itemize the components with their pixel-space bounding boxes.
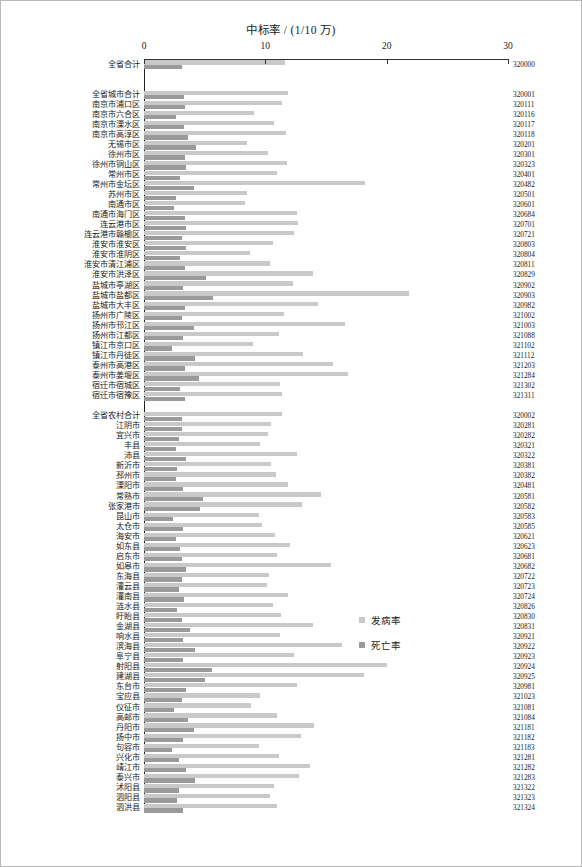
row-label: 全省农村合计 xyxy=(92,411,140,421)
bar-incidence xyxy=(144,111,254,115)
bar-incidence xyxy=(144,221,298,225)
bar-mortality xyxy=(144,718,188,722)
row-label: 盐城市大丰区 xyxy=(92,301,140,311)
row-code: 320117 xyxy=(513,120,535,130)
chart-row: 淮安市淮阴区320804 xyxy=(144,251,508,261)
bar-incidence xyxy=(144,482,288,486)
row-bars xyxy=(144,311,508,321)
row-label: 淮安市淮安区 xyxy=(92,240,140,250)
bar-incidence xyxy=(144,472,276,476)
row-bars xyxy=(144,703,508,713)
row-code: 320116 xyxy=(513,110,535,120)
row-bars xyxy=(144,592,508,602)
bar-mortality xyxy=(144,105,185,109)
row-code: 321088 xyxy=(513,331,535,341)
bar-mortality xyxy=(144,527,183,531)
row-label: 镇江市京口区 xyxy=(92,341,140,351)
chart-row: 常熟市320581 xyxy=(144,492,508,502)
row-label: 扬中市 xyxy=(116,733,140,743)
bar-incidence xyxy=(144,513,259,517)
row-bars xyxy=(144,633,508,643)
bar-incidence xyxy=(144,643,342,647)
row-label: 邳州市 xyxy=(116,471,140,481)
bar-mortality xyxy=(144,587,179,591)
bar-mortality xyxy=(144,467,177,471)
bar-incidence xyxy=(144,131,286,135)
bar-mortality xyxy=(144,196,176,200)
row-label: 泰兴市 xyxy=(116,773,140,783)
row-code: 320621 xyxy=(513,532,535,542)
row-bars xyxy=(144,422,508,432)
bar-incidence xyxy=(144,191,247,195)
row-bars xyxy=(144,442,508,452)
chart-row: 常州市金坛区320482 xyxy=(144,181,508,191)
bar-incidence xyxy=(144,673,364,677)
row-label: 射阳县 xyxy=(116,662,140,672)
chart-row: 兴化市321281 xyxy=(144,753,508,763)
chart-row: 新沂市320381 xyxy=(144,462,508,472)
row-bars xyxy=(144,392,508,402)
chart-row: 如东县320623 xyxy=(144,542,508,552)
row-bars xyxy=(144,361,508,371)
chart-row: 南京市溧水区320117 xyxy=(144,120,508,130)
row-code: 320111 xyxy=(513,100,534,110)
row-bars xyxy=(144,140,508,150)
chart-row: 金湖县320831 xyxy=(144,623,508,633)
row-bars xyxy=(144,271,508,281)
bar-incidence xyxy=(144,774,299,778)
row-bars xyxy=(144,452,508,462)
bar-mortality xyxy=(144,648,195,652)
bar-incidence xyxy=(144,281,293,285)
bar-incidence xyxy=(144,804,277,808)
bar-mortality xyxy=(144,447,176,451)
row-bars xyxy=(144,130,508,140)
bar-incidence xyxy=(144,362,333,366)
row-code: 320724 xyxy=(513,592,535,602)
bar-mortality xyxy=(144,366,185,370)
row-code: 320830 xyxy=(513,612,535,622)
chart-row: 扬州市江都区321088 xyxy=(144,331,508,341)
row-label: 东海县 xyxy=(116,572,140,582)
row-label: 句容市 xyxy=(116,743,140,753)
row-label: 盱眙县 xyxy=(116,612,140,622)
group-spacer xyxy=(144,70,508,80)
row-bars xyxy=(144,331,508,341)
row-code: 320585 xyxy=(513,522,535,532)
row-label: 丰县 xyxy=(124,441,140,451)
chart-row: 泰州市高港区321203 xyxy=(144,361,508,371)
row-bars xyxy=(144,171,508,181)
row-label: 南京市六合区 xyxy=(92,110,140,120)
row-label: 泰州市姜堰区 xyxy=(92,371,140,381)
row-code: 321322 xyxy=(513,783,535,793)
bar-mortality xyxy=(144,738,183,742)
bar-incidence xyxy=(144,91,288,95)
chart-row: 高邮市321084 xyxy=(144,713,508,723)
row-code: 320323 xyxy=(513,160,535,170)
bar-mortality xyxy=(144,216,185,220)
chart-row: 溧阳市320481 xyxy=(144,482,508,492)
row-label: 盐城市盐都区 xyxy=(92,291,140,301)
row-code: 321182 xyxy=(513,733,535,743)
row-bars xyxy=(144,412,508,422)
row-label: 宜兴市 xyxy=(116,431,140,441)
bar-incidence xyxy=(144,533,275,537)
row-code: 321284 xyxy=(513,371,535,381)
row-code: 320721 xyxy=(513,230,535,240)
chart-row: 扬中市321182 xyxy=(144,733,508,743)
row-label: 连云港市区 xyxy=(100,220,140,230)
chart-row: 涟水县320826 xyxy=(144,603,508,613)
row-bars xyxy=(144,281,508,291)
row-label: 扬州市江都区 xyxy=(92,331,140,341)
group-spacer xyxy=(144,80,508,90)
bar-incidence xyxy=(144,573,269,577)
bar-mortality xyxy=(144,728,194,732)
row-label: 如东县 xyxy=(116,542,140,552)
row-code: 321283 xyxy=(513,773,535,783)
row-bars xyxy=(144,753,508,763)
bar-incidence xyxy=(144,342,253,346)
row-label: 高邮市 xyxy=(116,713,140,723)
row-bars xyxy=(144,572,508,582)
row-code: 320982 xyxy=(513,301,535,311)
row-label: 阜宁县 xyxy=(116,652,140,662)
row-code: 320803 xyxy=(513,240,535,250)
